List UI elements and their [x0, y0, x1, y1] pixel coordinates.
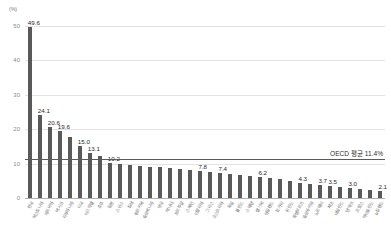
bar-slot: 49.6 — [25, 26, 35, 198]
category-slot: 슬로바키아 — [305, 199, 315, 248]
bar[interactable] — [328, 186, 331, 198]
bar-slot: 24.1 — [35, 26, 45, 198]
bar[interactable] — [58, 131, 61, 198]
category-slot: 한국 — [25, 199, 35, 248]
category-label: 노르웨이 — [312, 200, 325, 217]
x-axis-category-labels: 한국에스토니아라트비아멕시코리투아니아미국이스라엘호주일본스위스칠레튀르키예슬로… — [25, 199, 385, 248]
bar[interactable] — [38, 115, 41, 198]
bar-slot: 7.4 — [215, 26, 225, 198]
category-slot: 에스토니아 — [35, 199, 45, 248]
bar[interactable] — [168, 168, 171, 198]
bar-slot — [335, 26, 345, 198]
bar-slot: 3.0 — [345, 26, 355, 198]
bar[interactable] — [258, 177, 261, 198]
bar[interactable] — [288, 181, 291, 198]
bar-slot — [165, 26, 175, 198]
bar-slot — [175, 26, 185, 198]
category-slot: 덴마크 — [345, 199, 355, 248]
bar[interactable] — [188, 170, 191, 198]
bar-slot: 6.2 — [255, 26, 265, 198]
bar-slot: 4.3 — [295, 26, 305, 198]
category-label: 폴란드 — [234, 200, 245, 213]
y-tick-label-30: 30 — [0, 91, 20, 97]
bar[interactable] — [308, 184, 311, 198]
bar-slot — [265, 26, 275, 198]
bar[interactable] — [348, 188, 351, 198]
bar-value-label: 2.1 — [378, 183, 387, 190]
category-slot: 뉴질랜드 — [375, 199, 385, 248]
category-label: 호주 — [96, 200, 105, 210]
category-slot: 벨기에 — [255, 199, 265, 248]
bar-slot — [185, 26, 195, 198]
bar-slot: 15.0 — [75, 26, 85, 198]
bar-slot: 20.6 — [45, 26, 55, 198]
category-slot: 그리스 — [205, 199, 215, 248]
category-slot: 독일 — [225, 199, 235, 248]
category-label: 뉴질랜드 — [372, 200, 385, 217]
bar-slot: 10.2 — [105, 26, 115, 198]
y-axis-unit-label: (%) — [9, 6, 17, 12]
category-slot: 스웨덴 — [245, 199, 255, 248]
y-tick-label-50: 50 — [0, 23, 20, 29]
bar[interactable] — [338, 187, 341, 198]
bar[interactable] — [158, 167, 161, 198]
bar-slot: 3.7 — [315, 26, 325, 198]
bar[interactable] — [68, 137, 71, 198]
category-slot: 캐나다 — [165, 199, 175, 248]
average-line — [25, 159, 385, 160]
bar[interactable] — [98, 156, 101, 198]
category-slot: 라트비아 — [45, 199, 55, 248]
bar-slot — [275, 26, 285, 198]
category-label: 이탈리아 — [192, 200, 205, 217]
bar[interactable] — [108, 163, 111, 198]
bar[interactable] — [248, 176, 251, 198]
bar[interactable] — [238, 175, 241, 198]
category-slot: 스위스 — [115, 199, 125, 248]
bar[interactable] — [48, 127, 51, 198]
category-slot: 호주 — [95, 199, 105, 248]
bar-slot — [115, 26, 125, 198]
category-slot: 핀란드 — [285, 199, 295, 248]
bar-slot: 13.1 — [85, 26, 95, 198]
bar-slot — [155, 26, 165, 198]
bar[interactable] — [378, 191, 381, 198]
category-slot: 칠레 — [125, 199, 135, 248]
bar[interactable] — [138, 166, 141, 198]
bar[interactable] — [358, 189, 361, 198]
average-line-label: OECD 평균 11.4% — [330, 148, 383, 158]
bar[interactable] — [278, 179, 281, 198]
bar[interactable] — [298, 183, 301, 198]
category-slot: 프랑스 — [355, 199, 365, 248]
category-slot: 헝가리 — [275, 199, 285, 248]
category-label: 덴마크 — [344, 200, 355, 213]
bar-slot — [95, 26, 105, 198]
bar[interactable] — [218, 173, 221, 198]
bar[interactable] — [318, 185, 321, 198]
bar[interactable] — [208, 172, 211, 198]
bar-slot: 19.6 — [55, 26, 65, 198]
bar[interactable] — [228, 174, 231, 198]
category-label: 이스라엘 — [82, 200, 95, 217]
category-slot: 이탈리아 — [195, 199, 205, 248]
bar[interactable] — [118, 164, 121, 198]
category-slot: 포르투갈 — [175, 199, 185, 248]
bar[interactable] — [28, 27, 31, 198]
y-tick-label-10: 10 — [0, 160, 20, 166]
bar[interactable] — [148, 167, 151, 198]
bar[interactable] — [178, 169, 181, 198]
category-slot: 아일랜드 — [265, 199, 275, 248]
bar[interactable] — [128, 165, 131, 198]
category-slot: 튀르키예 — [135, 199, 145, 248]
category-slot: 이스라엘 — [85, 199, 95, 248]
oecd-bar-chart: (%) 50403020100 OECD 평균 11.4% 49.624.120… — [0, 0, 391, 248]
category-slot: 네덜란드 — [335, 199, 345, 248]
bar-slot — [365, 26, 375, 198]
category-slot: 리투아니아 — [65, 199, 75, 248]
bar-slot — [225, 26, 235, 198]
bar-slot — [355, 26, 365, 198]
bar[interactable] — [78, 146, 81, 198]
bar[interactable] — [368, 190, 371, 198]
bar[interactable] — [198, 171, 201, 198]
y-tick-label-0: 0 — [0, 195, 20, 201]
bar[interactable] — [268, 178, 271, 198]
